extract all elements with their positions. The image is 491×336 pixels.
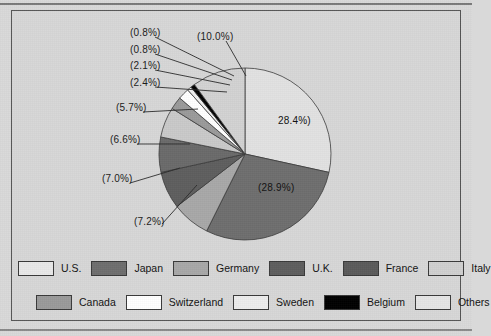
legend-item-others[interactable]: Others: [415, 295, 490, 310]
slice-label-japan: (28.9%): [258, 182, 294, 193]
legend-label-belgium: Belgium: [367, 296, 405, 308]
leader-line-belgium: [155, 54, 232, 80]
slice-label-sweden: (0.8%): [130, 27, 161, 38]
legend-swatch-switzerland: [126, 295, 162, 310]
legend-item-italy[interactable]: Italy: [428, 261, 490, 276]
legend-label-france: France: [386, 262, 419, 274]
legend-row-primary: U.S.JapanGermanyU.K.FranceItaly: [12, 255, 468, 281]
legend-item-belgium[interactable]: Belgium: [324, 295, 405, 310]
slice-label-canada: (2.4%): [130, 77, 161, 88]
legend-label-us: U.S.: [61, 262, 81, 274]
legend-swatch-france: [343, 261, 379, 276]
legend-item-canada[interactable]: Canada: [36, 295, 116, 310]
slice-label-italy: (5.7%): [116, 102, 147, 113]
pie-slices-group: [159, 68, 331, 240]
pie-plot-area: (0.8%) (0.8%) (2.1%) (2.4%) (5.7%) (6.6%…: [12, 11, 462, 251]
chart-legend: U.S.JapanGermanyU.K.FranceItaly CanadaSw…: [12, 249, 462, 321]
page-top-rule: [0, 3, 472, 5]
slice-label-uk: (7.0%): [102, 173, 133, 184]
legend-label-switzerland: Switzerland: [169, 296, 223, 308]
legend-swatch-uk: [269, 261, 305, 276]
slice-label-switzerland: (2.1%): [130, 60, 161, 71]
legend-label-sweden: Sweden: [276, 296, 314, 308]
legend-item-us[interactable]: U.S.: [18, 261, 81, 276]
legend-swatch-italy: [428, 261, 464, 276]
slice-label-us: 28.4%): [278, 115, 311, 126]
slice-label-others: (10.0%): [197, 31, 233, 42]
legend-item-france[interactable]: France: [343, 261, 419, 276]
legend-label-others: Others: [458, 296, 490, 308]
slice-label-belgium: (0.8%): [130, 44, 161, 55]
pie-chart-graphic: [12, 11, 462, 251]
slice-label-germany: (7.2%): [134, 216, 165, 227]
legend-swatch-sweden: [233, 295, 269, 310]
legend-item-japan[interactable]: Japan: [91, 261, 163, 276]
legend-label-canada: Canada: [79, 296, 116, 308]
legend-swatch-canada: [36, 295, 72, 310]
legend-label-italy: Italy: [471, 262, 490, 274]
legend-label-japan: Japan: [134, 262, 163, 274]
slice-label-france: (6.6%): [110, 134, 141, 145]
legend-item-switzerland[interactable]: Switzerland: [126, 295, 223, 310]
pie-chart-figure: (0.8%) (0.8%) (2.1%) (2.4%) (5.7%) (6.6%…: [11, 10, 461, 321]
legend-swatch-japan: [91, 261, 127, 276]
legend-item-uk[interactable]: U.K.: [269, 261, 332, 276]
legend-swatch-germany: [173, 261, 209, 276]
legend-label-uk: U.K.: [312, 262, 332, 274]
legend-swatch-others: [415, 295, 451, 310]
legend-swatch-belgium: [324, 295, 360, 310]
legend-label-germany: Germany: [216, 262, 259, 274]
legend-item-germany[interactable]: Germany: [173, 261, 259, 276]
legend-swatch-us: [18, 261, 54, 276]
legend-item-sweden[interactable]: Sweden: [233, 295, 314, 310]
leader-line-sweden: [155, 37, 234, 76]
legend-row-secondary: CanadaSwitzerlandSwedenBelgiumOthers: [12, 289, 486, 315]
page-bottom-rule: [0, 329, 472, 331]
